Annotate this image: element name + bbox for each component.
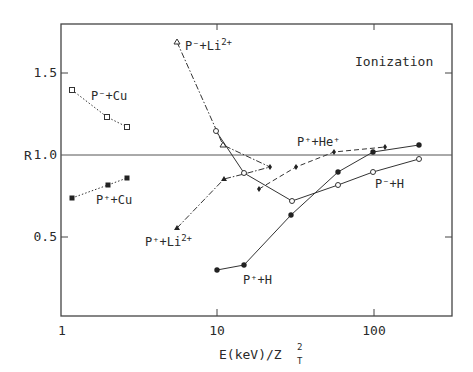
chart-title: Ionization xyxy=(355,54,433,69)
label-pplus-li: P⁺+Li2+ xyxy=(145,233,193,249)
label-pminus-h: P⁻+H xyxy=(375,177,404,191)
label-pplus-cu: P⁺+Cu xyxy=(96,193,132,207)
series-pplus-li xyxy=(174,167,270,230)
svg-text:E(keV)/Z: E(keV)/Z xyxy=(219,347,282,362)
label-pminus-li: P⁻+Li2+ xyxy=(185,37,233,53)
x-tick-1: 1 xyxy=(58,323,66,338)
label-pplus-h: P⁺+H xyxy=(243,273,272,287)
x-axis-label: E(keV)/Z 2 T xyxy=(219,342,303,366)
y-tick-1-0: 1.0 xyxy=(34,147,57,162)
y-tick-0-5: 0.5 xyxy=(34,229,57,244)
svg-text:T: T xyxy=(297,356,303,366)
x-tick-100: 100 xyxy=(362,323,385,338)
label-pminus-cu: P⁻+Cu xyxy=(91,89,127,103)
y-tick-1-5: 1.5 xyxy=(34,65,57,80)
svg-text:2: 2 xyxy=(297,342,302,352)
series-pplus-h xyxy=(214,142,421,272)
series-pminus-li xyxy=(174,39,270,167)
ionization-chart: 1 10 100 1.5 1.0 0.5 R E(keV)/Z 2 T Ioni… xyxy=(0,0,473,372)
series-pplus-he xyxy=(257,144,387,192)
y-axis-label: R xyxy=(24,148,32,163)
x-tick-10: 10 xyxy=(209,323,225,338)
label-pplus-he: P⁺+He⁺ xyxy=(297,135,340,149)
